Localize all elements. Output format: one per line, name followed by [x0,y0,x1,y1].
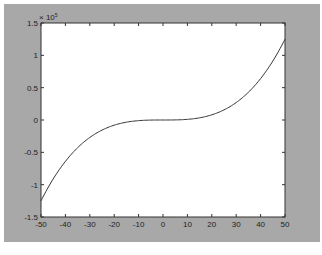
x-tick-label: -20 [108,220,120,229]
y-tick-label: 1.5 [27,19,39,28]
x-tick-label: 50 [281,220,290,229]
x-tick-label: -40 [60,220,72,229]
line-chart: -50-40-30-20-1001020304050 -1.5-1-0.500.… [0,0,322,255]
y-tick-label: -1.5 [24,213,38,222]
y-tick-label: 0 [34,116,39,125]
y-tick-label: 1 [34,51,39,60]
y-tick-label: -0.5 [24,148,38,157]
y-tick-label: -1 [31,181,39,190]
x-tick-label: 40 [256,220,265,229]
x-tick-label: 30 [232,220,241,229]
y-tick-label: 0.5 [27,84,39,93]
x-tick-label: 20 [207,220,216,229]
x-tick-label: -10 [133,220,145,229]
x-tick-label: 0 [161,220,166,229]
x-tick-label: -30 [84,220,96,229]
y-exponent-label: × 105 [39,12,58,22]
x-tick-label: 10 [183,220,192,229]
